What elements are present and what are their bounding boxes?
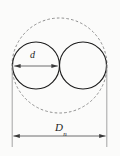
- figure-container: d Dn: [0, 0, 120, 156]
- left-inner-circle: [13, 42, 60, 89]
- outer-diameter-label: Dn: [55, 122, 66, 136]
- outer-diameter-label-base: D: [55, 121, 63, 133]
- outer-diameter-label-subscript: n: [63, 130, 67, 138]
- inner-diameter-label: d: [30, 50, 35, 60]
- right-inner-circle: [60, 42, 107, 89]
